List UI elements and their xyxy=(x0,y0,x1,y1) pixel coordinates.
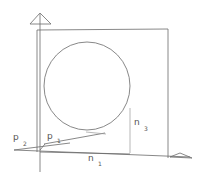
label-p1: p xyxy=(47,131,53,141)
label-n1-sub: 1 xyxy=(98,160,102,167)
label-n1: n xyxy=(88,153,94,163)
label-n3: n xyxy=(134,117,140,127)
label-p2-sub: 2 xyxy=(23,140,27,147)
label-n3-sub: 3 xyxy=(144,125,148,132)
geometry-diagram: p 2 p 1 n 3 n 1 xyxy=(0,0,204,180)
label-p2: p xyxy=(13,132,19,142)
vertical-axis-arrow-icon xyxy=(30,13,51,24)
n1-base-line xyxy=(40,152,130,154)
circle-object xyxy=(44,42,130,130)
p1-direction-line xyxy=(44,133,105,144)
label-p1-sub: 1 xyxy=(57,137,61,144)
